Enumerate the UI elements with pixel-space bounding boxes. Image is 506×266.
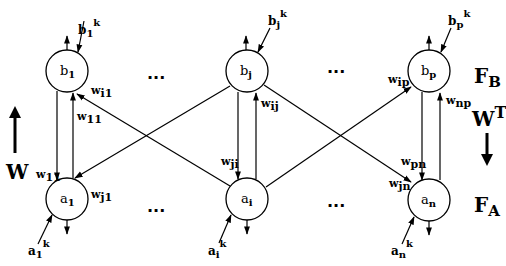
weight-label-j1: wj1	[90, 188, 112, 204]
weight-label-ip: wip	[387, 73, 410, 89]
vertical-edges	[57, 91, 440, 180]
layer-label-fb: FB	[474, 64, 501, 91]
weight-label-pn: wpn	[400, 155, 426, 171]
w-label-left: W	[5, 160, 29, 184]
input-arrow-bp	[441, 28, 451, 52]
bottom-external-io	[38, 215, 429, 244]
diagonal-edges	[75, 85, 411, 187]
edge-ai-to-bp	[266, 87, 411, 187]
node-bj: bj	[226, 50, 268, 92]
ellipsis-bottom-right: ...	[327, 192, 345, 211]
node-bp: bp	[408, 50, 450, 92]
top-external-io	[67, 21, 451, 52]
wt-label-right: WT	[471, 103, 506, 131]
edge-ai-to-b1	[77, 94, 230, 186]
edge-bj-to-a1	[75, 86, 230, 178]
edge-bj-to-an	[264, 85, 411, 182]
input-arrow-bj	[258, 28, 270, 52]
node-a1: a1	[46, 178, 88, 220]
node-ai: ai	[226, 178, 268, 220]
weight-label-jn: wjn	[388, 177, 410, 193]
ellipsis-top-right: ...	[327, 58, 345, 77]
node-b1: b1	[46, 50, 88, 92]
weight-label-11-down: w11	[35, 168, 61, 184]
weight-label-ij: wij	[260, 97, 279, 113]
weight-label-11-up: w11	[76, 110, 102, 126]
weight-label-i1: wi1	[90, 84, 112, 100]
layer-label-fa: FA	[474, 193, 500, 220]
input-label-bp: bpk	[448, 8, 471, 30]
ellipsis-bottom-left: ...	[147, 197, 165, 216]
input-label-bj: bjk	[268, 8, 288, 30]
weight-label-ji: wji	[220, 155, 239, 171]
weight-label-np: wnp	[445, 94, 471, 110]
input-label-ai: aik	[208, 238, 228, 260]
input-labels: b1k bjk bpk a1k aik ank	[28, 8, 471, 260]
input-label-an: ank	[391, 238, 414, 260]
input-label-b1: b1k	[78, 17, 101, 39]
ellipsis-top-left: ...	[147, 64, 165, 83]
node-an: an	[408, 179, 450, 221]
bam-network-diagram: b1 bj bp a1 ai an b1k bjk bpk a1k aik	[0, 0, 506, 266]
